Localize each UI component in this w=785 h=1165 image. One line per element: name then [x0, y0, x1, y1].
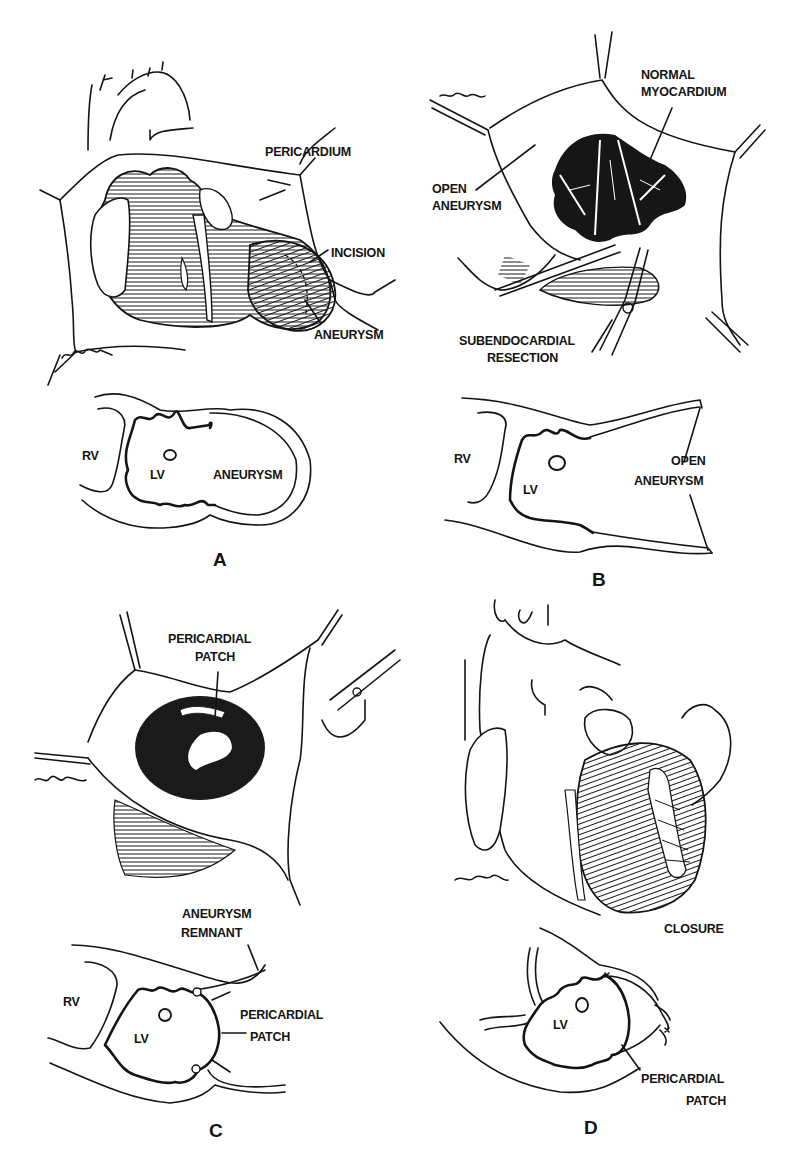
label-pericardial: PERICARDIAL — [168, 632, 251, 647]
label-open: OPEN — [671, 454, 706, 469]
label-closure: CLOSURE — [664, 922, 724, 937]
panel-letter-d: D — [584, 1117, 598, 1139]
surgical-illustration-artwork — [0, 0, 785, 1165]
label-aneurysm: ANEURYSM — [314, 328, 383, 343]
label-lv: LV — [553, 1018, 568, 1033]
panel-c-cross-section — [48, 945, 285, 1103]
panel-a-cross-section — [80, 394, 311, 528]
label-open: OPEN — [432, 182, 467, 197]
label-lv: LV — [523, 483, 538, 498]
panel-d-closure-illustration — [455, 600, 731, 915]
label-aneurysm-open: ANEURYSM — [634, 474, 703, 489]
label-rv: RV — [82, 449, 99, 464]
label-rv: RV — [454, 452, 471, 467]
label-resection: RESECTION — [487, 351, 558, 366]
label-aneurysm-open: ANEURYSM — [432, 199, 501, 214]
label-myocardium: MYOCARDIUM — [641, 85, 727, 100]
panel-letter-a: A — [213, 549, 227, 571]
label-pericardial: PERICARDIAL — [240, 1008, 323, 1023]
label-subendocardial: SUBENDOCARDIAL — [459, 334, 575, 349]
label-normal: NORMAL — [641, 68, 695, 83]
label-incision: INCISION — [331, 246, 385, 261]
label-aneurysm-section: ANEURYSM — [213, 468, 282, 483]
label-aneurysm-remnant-2: REMNANT — [181, 926, 242, 941]
label-patch: PATCH — [250, 1030, 290, 1045]
panel-letter-b: B — [592, 569, 606, 591]
panel-letter-c: C — [209, 1120, 223, 1142]
label-lv: LV — [150, 468, 165, 483]
label-aneurysm-remnant-1: ANEURYSM — [182, 907, 251, 922]
label-pericardium: PERICARDIUM — [265, 145, 351, 160]
panel-d-cross-section — [440, 928, 670, 1092]
label-pericardial: PERICARDIAL — [641, 1072, 724, 1087]
label-patch: PATCH — [686, 1094, 726, 1109]
label-lv: LV — [134, 1032, 149, 1047]
label-rv: RV — [63, 995, 80, 1010]
label-patch: PATCH — [195, 650, 235, 665]
panel-b-open-aneurysm-illustration — [430, 32, 765, 355]
